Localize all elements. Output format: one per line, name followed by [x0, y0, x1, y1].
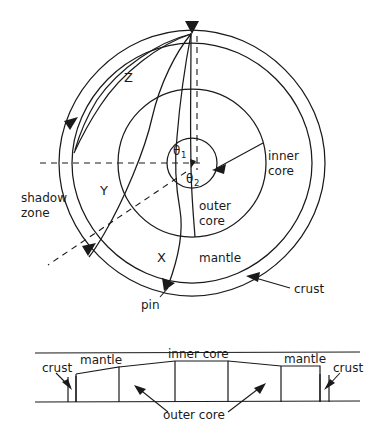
source-center-radius-line: [191, 33, 195, 237]
ray-z-arrowhead: [64, 117, 78, 130]
cropped-caption-strip: [0, 0, 387, 13]
ray-label-y: Y: [99, 183, 108, 198]
panel-crust-left-label: crust: [42, 361, 72, 375]
panel-mantle-block-left: [76, 367, 119, 402]
panel-mantle-left-label: mantle: [80, 353, 122, 367]
mantle-label: mantle: [199, 251, 241, 265]
shadow-zone-label-line1: shadow: [21, 191, 67, 205]
shadow-zone-label-line2: zone: [21, 206, 50, 220]
inner-core-leader-arrowhead: [212, 164, 226, 174]
outer-core-label-line1: outer: [199, 199, 231, 213]
panel-outer-core-right-arrowhead: [254, 383, 266, 394]
earthquake-source-marker: [185, 21, 199, 34]
inner-core-leader-line: [217, 143, 263, 168]
panel-bottom-rail: [35, 401, 360, 402]
panel-outer-core-left: [119, 361, 175, 367]
ray-path-z-secondary: [75, 34, 191, 150]
panel-crust-block-right: [320, 374, 329, 402]
panel-inner-core-label: inner core: [168, 347, 229, 361]
angle-theta2-subscript: 2: [194, 178, 199, 188]
panel-outer-core-label: outer core: [163, 408, 225, 422]
panel-inner-core-block: [175, 361, 228, 402]
inner-core-label-line2: core: [268, 164, 294, 178]
earth-cross-section: Z Y X θ 1 θ 2 inner core outer core mant…: [21, 21, 325, 312]
ray-path-x: [168, 34, 191, 286]
angle-theta1-subscript: 1: [181, 150, 186, 160]
panel-mantle-block-right: [281, 366, 320, 402]
inner-core-label-line1: inner: [268, 149, 299, 163]
panel-outer-core-right: [228, 361, 281, 366]
ray-label-z: Z: [124, 70, 133, 85]
angle-theta1-symbol: θ: [173, 144, 180, 158]
cross-section-panel: crust mantle inner core mantle crust out…: [35, 347, 363, 422]
seismic-ray-diagram: Z Y X θ 1 θ 2 inner core outer core mant…: [0, 0, 387, 429]
panel-crust-right-label: crust: [333, 361, 363, 375]
pin-label: pin: [141, 298, 160, 312]
outer-core-label-line2: core: [199, 214, 225, 228]
panel-mantle-right-label: mantle: [284, 352, 326, 366]
crust-label: crust: [294, 282, 324, 296]
ray-path-z: [74, 34, 191, 153]
angle-theta2-symbol: θ: [186, 172, 193, 186]
ray-label-x: X: [157, 250, 166, 265]
figure-root: Z Y X θ 1 θ 2 inner core outer core mant…: [0, 0, 387, 429]
panel-crust-block-left: [68, 376, 76, 402]
